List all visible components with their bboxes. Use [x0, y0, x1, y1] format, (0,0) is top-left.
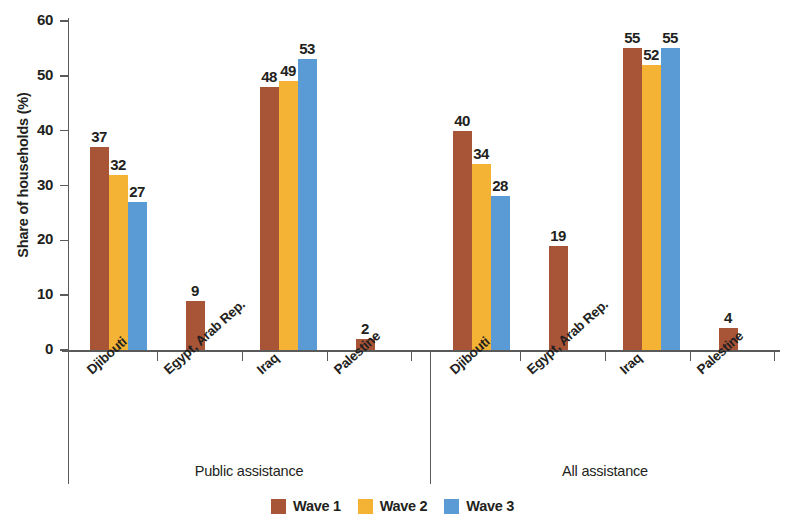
- x-axis-tick: [242, 350, 243, 361]
- legend-item: Wave 2: [358, 498, 428, 514]
- bar-wave-1: [260, 87, 279, 350]
- y-axis-tick-label: 30: [13, 176, 53, 193]
- bar-wave-1: [623, 48, 642, 350]
- bar-wave-2: [109, 175, 128, 350]
- y-axis-tick-label: 0: [13, 340, 53, 357]
- legend-label: Wave 1: [293, 498, 341, 514]
- bar-series-layer: 37322794849532403428195552554: [68, 21, 780, 350]
- legend-item: Wave 3: [444, 498, 514, 514]
- bar-wave-1: [453, 131, 472, 350]
- legend-swatch-icon: [271, 499, 286, 514]
- bar-value-label: 53: [294, 40, 320, 57]
- y-axis-tick-label: 40: [13, 121, 53, 138]
- bar-value-label: 34: [468, 145, 494, 162]
- legend-swatch-icon: [358, 499, 373, 514]
- x-axis-tick: [690, 350, 691, 361]
- bar-value-label: 55: [619, 29, 645, 46]
- panel-separator: [430, 352, 431, 484]
- x-axis-tick: [520, 350, 521, 361]
- bar-value-label: 32: [105, 156, 131, 173]
- y-axis-tick-label: 20: [13, 230, 53, 247]
- panel-separator: [68, 352, 69, 484]
- chart-canvas: Share of households (%) 0102030405060 37…: [0, 0, 785, 524]
- bar-value-label: 27: [124, 183, 150, 200]
- bar-wave-3: [491, 196, 510, 350]
- x-category-label-iraq: Iraq: [617, 350, 645, 377]
- bar-wave-2: [642, 65, 661, 350]
- bar-wave-3: [298, 59, 317, 350]
- legend-label: Wave 3: [466, 498, 514, 514]
- bar-value-label: 28: [487, 177, 513, 194]
- bar-value-label: 55: [657, 29, 683, 46]
- chart-legend: Wave 1Wave 2Wave 3: [0, 498, 785, 514]
- bar-value-label: 37: [86, 128, 112, 145]
- legend-item: Wave 1: [271, 498, 341, 514]
- x-axis-tick: [411, 350, 412, 361]
- y-axis-tick-label: 50: [13, 66, 53, 83]
- x-axis-line: [62, 350, 780, 352]
- bar-value-label: 19: [545, 227, 571, 244]
- panel-title: Public assistance: [139, 463, 359, 479]
- x-axis-tick: [157, 350, 158, 361]
- bar-value-label: 9: [182, 282, 208, 299]
- x-axis-tick: [774, 350, 775, 361]
- bar-wave-3: [128, 202, 147, 350]
- y-axis-tick-label: 60: [13, 11, 53, 28]
- bar-value-label: 40: [449, 112, 475, 129]
- x-axis-tick: [327, 350, 328, 361]
- bar-wave-3: [661, 48, 680, 350]
- x-axis-tick: [605, 350, 606, 361]
- legend-swatch-icon: [444, 499, 459, 514]
- panel-title: All assistance: [495, 463, 715, 479]
- x-category-label-iraq: Iraq: [254, 350, 282, 377]
- bar-wave-2: [279, 81, 298, 350]
- bar-value-label: 4: [715, 309, 741, 326]
- legend-label: Wave 2: [380, 498, 428, 514]
- bar-wave-1: [90, 147, 109, 350]
- y-axis-tick-label: 10: [13, 285, 53, 302]
